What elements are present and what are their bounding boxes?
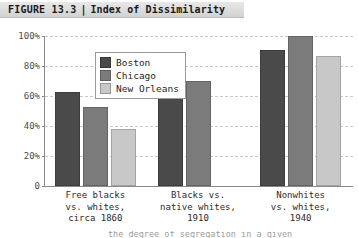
legend-swatch-icon	[100, 57, 111, 68]
x-axis-label-line: vs. whites,	[249, 202, 352, 214]
legend-item: New Orleans	[100, 82, 179, 95]
bar	[186, 81, 211, 186]
x-axis-label-line: vs. whites,	[44, 202, 147, 214]
legend-label: Boston	[116, 57, 150, 68]
bar-chart: 020%40%60%80%100% BostonChicagoNew Orlea…	[0, 24, 359, 238]
y-axis-tick-label: 60%	[24, 91, 40, 101]
bar	[55, 92, 80, 187]
legend-label: New Orleans	[116, 83, 179, 94]
legend-swatch-icon	[100, 70, 111, 81]
figure-number: FIGURE 13.3	[8, 4, 76, 15]
legend-item: Chicago	[100, 69, 179, 82]
x-axis-label-line: Nonwhites	[249, 190, 352, 202]
x-axis-label-line: Free blacks	[44, 190, 147, 202]
x-axis-label-line: Blacks vs.	[147, 190, 250, 202]
caption-clipped: the degree of segregation in a given	[0, 231, 359, 238]
figure-header: FIGURE 13.3 | Index of Dissimilarity	[0, 2, 244, 18]
x-axis-category-label: Nonwhitesvs. whites,1940	[249, 190, 352, 225]
plot-area: 020%40%60%80%100% BostonChicagoNew Orlea…	[44, 36, 353, 187]
y-axis-tick-mark	[42, 186, 45, 187]
x-axis-label-line: native whites,	[147, 202, 250, 214]
legend-swatch-icon	[100, 83, 111, 94]
x-axis-labels: Free blacksvs. whites,circa 1860Blacks v…	[44, 190, 352, 236]
chart-legend: BostonChicagoNew Orleans	[95, 52, 186, 99]
y-axis-tick-label: 100%	[18, 31, 40, 41]
legend-label: Chicago	[116, 70, 156, 81]
x-axis-label-line: 1910	[147, 213, 250, 225]
y-axis-tick-label: 40%	[24, 121, 40, 131]
caption-text: the degree of segregation in a given	[108, 231, 292, 238]
x-axis-label-line: circa 1860	[44, 213, 147, 225]
figure-title: Index of Dissimilarity	[90, 4, 225, 15]
x-axis-label-line: 1940	[249, 213, 352, 225]
bars-layer	[45, 36, 353, 186]
x-axis-category-label: Blacks vs.native whites,1910	[147, 190, 250, 225]
x-axis-category-label: Free blacksvs. whites,circa 1860	[44, 190, 147, 225]
bar	[260, 50, 285, 187]
bar	[288, 36, 313, 186]
y-axis-tick-label: 20%	[24, 151, 40, 161]
figure-separator: |	[80, 4, 86, 15]
bar	[316, 56, 341, 187]
y-axis-tick-label: 80%	[24, 61, 40, 71]
y-axis-tick-label: 0	[35, 181, 40, 191]
bar	[83, 107, 108, 187]
bar	[111, 129, 136, 186]
legend-item: Boston	[100, 56, 179, 69]
bar	[158, 86, 183, 187]
